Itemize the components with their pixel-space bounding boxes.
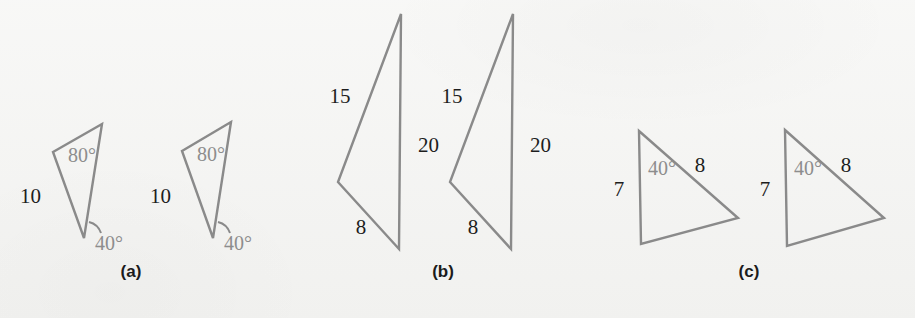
side-20-right: 20 xyxy=(530,133,551,157)
angle-40-c-right: 40° xyxy=(794,157,822,179)
triangle-c-right: 40°87 xyxy=(760,130,884,246)
angle-80-right: 80° xyxy=(197,143,225,165)
triangle-a-right-outline xyxy=(182,122,231,238)
triangle-b-left-outline xyxy=(338,14,401,249)
side-8-c-right: 8 xyxy=(841,153,852,177)
triangle-congruence-figure: 80°1040°80°1040°152081520840°8740°87 (a)… xyxy=(0,0,915,318)
angle-40-c-left: 40° xyxy=(648,157,676,179)
triangle-a-right: 80°1040° xyxy=(150,122,252,254)
side-7-c-left: 7 xyxy=(614,177,625,201)
side-8-left: 8 xyxy=(356,215,367,239)
side-15-left: 15 xyxy=(330,84,351,108)
side-10-left: 10 xyxy=(20,184,41,208)
side-8-right: 8 xyxy=(468,215,479,239)
triangle-a-left-outline xyxy=(53,124,102,238)
side-8-c-left: 8 xyxy=(695,153,706,177)
panel-label-b: (b) xyxy=(432,262,454,282)
triangle-b-right: 15208 xyxy=(442,14,552,249)
angle-40-right: 40° xyxy=(224,232,252,254)
angle-80-left: 80° xyxy=(68,144,96,166)
triangle-c-left: 40°87 xyxy=(614,131,738,244)
panel-label-a: (a) xyxy=(121,262,142,282)
side-10-right: 10 xyxy=(150,184,171,208)
side-20-left: 20 xyxy=(418,133,439,157)
triangle-b-right-outline xyxy=(450,14,513,249)
triangle-c-right-outline xyxy=(785,130,884,246)
panel-label-c: (c) xyxy=(739,262,760,282)
side-7-c-right: 7 xyxy=(760,177,771,201)
triangle-c-left-outline xyxy=(639,131,738,244)
triangle-b-left: 15208 xyxy=(330,14,440,249)
side-15-right: 15 xyxy=(442,84,463,108)
triangle-a-left: 80°1040° xyxy=(20,124,123,254)
angle-40-left: 40° xyxy=(95,232,123,254)
